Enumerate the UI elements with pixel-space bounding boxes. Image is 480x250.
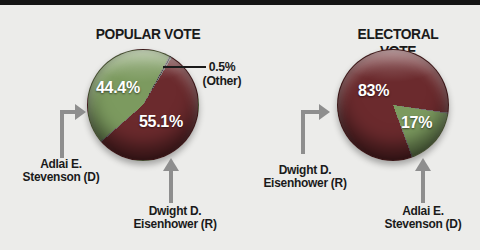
arrow-shaft-vertical xyxy=(169,170,173,203)
eisenhower-popular-value: 55.1% xyxy=(139,113,183,131)
arrow-shaft-horizontal xyxy=(301,110,320,114)
electoral-vote-pie xyxy=(337,49,449,161)
label-line-2: Stevenson (D) xyxy=(377,217,469,230)
eisenhower-electoral-value: 83% xyxy=(358,82,389,100)
eisenhower-popular-label: Dwight D. Eisenhower (R) xyxy=(129,204,221,230)
label-line-2: Stevenson (D) xyxy=(15,170,107,183)
other-callout-value: 0.5% xyxy=(198,60,247,74)
stevenson-electoral-label: Adlai E. Stevenson (D) xyxy=(377,204,469,230)
election-infographic: POPULAR VOTE 44.4% 55.1% 0.5% (Other) Ad… xyxy=(0,0,480,250)
label-line-2: Eisenhower (R) xyxy=(259,176,351,189)
stevenson-popular-value: 44.4% xyxy=(96,79,140,97)
arrow-shaft-horizontal xyxy=(60,110,76,114)
arrow-shaft-vertical xyxy=(60,110,64,158)
other-callout: 0.5% (Other) xyxy=(198,60,247,88)
other-callout-name: (Other) xyxy=(198,74,247,88)
stevenson-popular-label: Adlai E. Stevenson (D) xyxy=(15,157,107,183)
arrow-head-up-icon xyxy=(415,158,431,171)
stevenson-electoral-value: 17% xyxy=(401,114,432,132)
arrow-shaft-vertical xyxy=(301,110,305,154)
top-border xyxy=(0,0,480,5)
label-line-2: Eisenhower (R) xyxy=(129,217,221,230)
arrow-shaft-vertical xyxy=(421,170,425,203)
arrow-head-right-icon xyxy=(75,104,86,120)
chart-title-popular: POPULAR VOTE xyxy=(92,25,204,42)
arrow-head-right-icon xyxy=(319,104,330,120)
eisenhower-electoral-label: Dwight D. Eisenhower (R) xyxy=(259,163,351,189)
arrow-head-up-icon xyxy=(163,158,179,171)
